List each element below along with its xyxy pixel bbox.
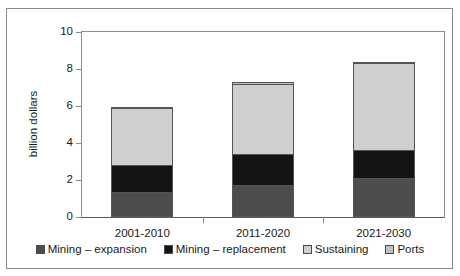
- legend-label: Ports: [397, 243, 424, 255]
- legend-label: Sustaining: [315, 243, 369, 255]
- bar-segment: [111, 192, 173, 217]
- plot-area: 1086420 2001-20102011-20202021-2030: [81, 31, 445, 218]
- x-axis-separator: [323, 217, 324, 223]
- bar-stack: [353, 62, 415, 217]
- legend-label: Mining – replacement: [176, 243, 286, 255]
- y-tick-label: 6: [67, 100, 73, 112]
- legend-swatch-icon: [36, 245, 45, 254]
- bar-segment: [353, 178, 415, 217]
- y-tick-mark: [76, 106, 82, 107]
- bar-segment: [232, 154, 294, 185]
- y-tick-label: 4: [67, 137, 73, 149]
- y-tick-mark: [76, 217, 82, 218]
- legend-item[interactable]: Ports: [385, 243, 424, 255]
- x-category-label: 2021-2030: [356, 227, 411, 239]
- x-category-label: 2001-2010: [115, 227, 170, 239]
- y-tick-label: 0: [67, 211, 73, 223]
- legend-item[interactable]: Mining – replacement: [164, 243, 286, 255]
- chart-frame: billion dollars 1086420 2001-20102011-20…: [6, 8, 453, 269]
- legend-item[interactable]: Sustaining: [303, 243, 369, 255]
- bar-segment: [353, 63, 415, 152]
- y-tick-mark: [76, 143, 82, 144]
- bar-stack: [111, 107, 173, 217]
- y-tick-label: 2: [67, 174, 73, 186]
- x-category-label: 2011-2020: [236, 227, 290, 239]
- bar-segment: [232, 84, 294, 155]
- bar-segment: [111, 108, 173, 166]
- legend-swatch-icon: [385, 245, 394, 254]
- chart-legend: Mining – expansionMining – replacementSu…: [0, 243, 460, 255]
- x-axis-separator: [203, 217, 204, 223]
- y-tick-label: 8: [67, 63, 73, 75]
- legend-swatch-icon: [303, 245, 312, 254]
- chart-figure: billion dollars 1086420 2001-20102011-20…: [0, 0, 460, 276]
- bar-segment: [111, 165, 173, 193]
- y-tick-label: 10: [60, 26, 73, 38]
- legend-swatch-icon: [164, 245, 173, 254]
- legend-item[interactable]: Mining – expansion: [36, 243, 147, 255]
- y-tick-mark: [76, 180, 82, 181]
- legend-label: Mining – expansion: [48, 243, 147, 255]
- y-tick-mark: [76, 69, 82, 70]
- bar-segment: [232, 185, 294, 217]
- y-axis-label: billion dollars: [27, 91, 39, 157]
- bar-segment: [353, 150, 415, 179]
- y-tick-mark: [76, 32, 82, 33]
- bar-stack: [232, 82, 294, 217]
